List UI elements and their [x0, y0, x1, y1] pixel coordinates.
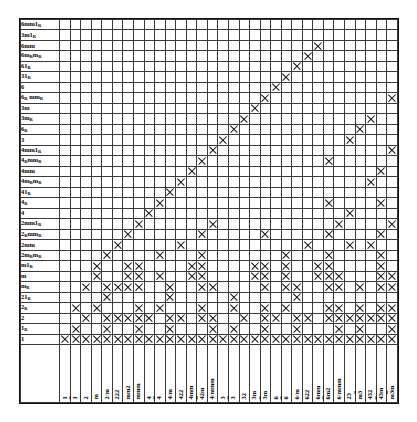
column-header-cell[interactable]: mm2	[123, 345, 134, 403]
cell-empty[interactable]	[197, 61, 208, 71]
cell-empty[interactable]	[313, 30, 324, 40]
cell-empty[interactable]	[197, 20, 208, 30]
cell-empty[interactable]	[302, 229, 313, 239]
cell-marked[interactable]	[387, 271, 398, 281]
column-header-cell[interactable]: 6	[271, 345, 282, 403]
cell-empty[interactable]	[250, 282, 261, 292]
cell-empty[interactable]	[70, 145, 81, 155]
cell-empty[interactable]	[334, 40, 345, 50]
cell-empty[interactable]	[91, 103, 102, 113]
cell-empty[interactable]	[91, 20, 102, 30]
cell-empty[interactable]	[91, 177, 102, 187]
cell-empty[interactable]	[81, 240, 92, 250]
cell-empty[interactable]	[70, 219, 81, 229]
cell-empty[interactable]	[313, 219, 324, 229]
cell-empty[interactable]	[165, 103, 176, 113]
cell-empty[interactable]	[165, 250, 176, 260]
cell-marked[interactable]	[376, 198, 387, 208]
cell-empty[interactable]	[218, 324, 229, 334]
cell-empty[interactable]	[134, 40, 145, 50]
cell-empty[interactable]	[292, 303, 303, 313]
cell-empty[interactable]	[376, 61, 387, 71]
cell-empty[interactable]	[60, 30, 71, 40]
cell-empty[interactable]	[334, 177, 345, 187]
cell-empty[interactable]	[334, 114, 345, 124]
column-header-cell[interactable]: 222	[112, 345, 123, 403]
cell-empty[interactable]	[102, 198, 113, 208]
cell-empty[interactable]	[313, 282, 324, 292]
cell-empty[interactable]	[250, 240, 261, 250]
cell-marked[interactable]	[81, 334, 92, 344]
cell-empty[interactable]	[355, 30, 366, 40]
cell-marked[interactable]	[387, 324, 398, 334]
cell-empty[interactable]	[60, 240, 71, 250]
cell-empty[interactable]	[218, 51, 229, 61]
cell-empty[interactable]	[355, 103, 366, 113]
cell-marked[interactable]	[186, 334, 197, 344]
cell-marked[interactable]	[197, 282, 208, 292]
cell-empty[interactable]	[60, 103, 71, 113]
cell-empty[interactable]	[123, 219, 134, 229]
cell-empty[interactable]	[334, 72, 345, 82]
cell-empty[interactable]	[144, 177, 155, 187]
cell-empty[interactable]	[376, 20, 387, 30]
cell-empty[interactable]	[313, 303, 324, 313]
cell-marked[interactable]	[207, 324, 218, 334]
cell-marked[interactable]	[81, 313, 92, 323]
cell-empty[interactable]	[313, 198, 324, 208]
cell-empty[interactable]	[228, 93, 239, 103]
cell-empty[interactable]	[123, 93, 134, 103]
cell-empty[interactable]	[218, 208, 229, 218]
cell-empty[interactable]	[102, 93, 113, 103]
cell-empty[interactable]	[186, 145, 197, 155]
cell-empty[interactable]	[218, 187, 229, 197]
cell-empty[interactable]	[366, 292, 377, 302]
cell-empty[interactable]	[292, 229, 303, 239]
cell-empty[interactable]	[228, 61, 239, 71]
cell-empty[interactable]	[155, 166, 166, 176]
cell-empty[interactable]	[239, 135, 250, 145]
cell-empty[interactable]	[112, 72, 123, 82]
cell-empty[interactable]	[239, 292, 250, 302]
cell-empty[interactable]	[281, 124, 292, 134]
cell-empty[interactable]	[260, 20, 271, 30]
cell-marked[interactable]	[376, 271, 387, 281]
cell-empty[interactable]	[334, 261, 345, 271]
cell-empty[interactable]	[81, 51, 92, 61]
cell-empty[interactable]	[102, 145, 113, 155]
cell-marked[interactable]	[134, 261, 145, 271]
cell-empty[interactable]	[218, 313, 229, 323]
cell-empty[interactable]	[250, 135, 261, 145]
cell-empty[interactable]	[123, 124, 134, 134]
cell-marked[interactable]	[91, 303, 102, 313]
cell-empty[interactable]	[207, 114, 218, 124]
cell-marked[interactable]	[155, 271, 166, 281]
cell-marked[interactable]	[344, 240, 355, 250]
cell-empty[interactable]	[144, 30, 155, 40]
cell-empty[interactable]	[376, 103, 387, 113]
cell-empty[interactable]	[355, 271, 366, 281]
cell-marked[interactable]	[228, 303, 239, 313]
cell-marked[interactable]	[134, 324, 145, 334]
cell-empty[interactable]	[313, 20, 324, 30]
cell-empty[interactable]	[302, 145, 313, 155]
cell-marked[interactable]	[81, 282, 92, 292]
cell-empty[interactable]	[228, 103, 239, 113]
cell-empty[interactable]	[112, 324, 123, 334]
cell-empty[interactable]	[302, 40, 313, 50]
cell-empty[interactable]	[292, 82, 303, 92]
cell-empty[interactable]	[292, 93, 303, 103]
cell-marked[interactable]	[292, 61, 303, 71]
cell-marked[interactable]	[281, 250, 292, 260]
cell-empty[interactable]	[376, 72, 387, 82]
cell-empty[interactable]	[60, 40, 71, 50]
cell-empty[interactable]	[302, 20, 313, 30]
cell-empty[interactable]	[155, 261, 166, 271]
cell-empty[interactable]	[344, 72, 355, 82]
cell-empty[interactable]	[91, 114, 102, 124]
cell-marked[interactable]	[387, 145, 398, 155]
cell-empty[interactable]	[81, 145, 92, 155]
cell-marked[interactable]	[112, 240, 123, 250]
cell-empty[interactable]	[250, 40, 261, 50]
cell-empty[interactable]	[81, 156, 92, 166]
